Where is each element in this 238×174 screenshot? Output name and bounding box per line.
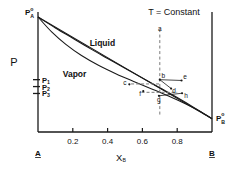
point-marker-c [128,83,130,85]
point-label-g: g [157,96,161,104]
x-axis-title: XB [116,152,126,164]
region-label-liquid: Liquid [90,38,116,48]
point-label-d: d [172,87,176,94]
y-axis-title: P [10,56,17,68]
point-label-c: c [123,79,127,86]
x-tick-label-2: 0.6 [137,137,149,146]
endpoint-label-p-b-pure: PoB [216,112,225,126]
point-label-a: a [158,25,162,32]
condition-label: T = Constant [148,7,200,17]
point-label-b: b [161,72,165,79]
region-label-vapor: Vapor [63,69,87,79]
point-label-f: f [139,90,141,97]
endpoint-label-p-a-pure: PoA [25,6,34,20]
point-marker-e [180,79,182,81]
connector-b-d [160,80,171,89]
connector-b-e [160,80,182,81]
x-endpoint-label-a: A [35,149,41,158]
point-marker-f [142,90,144,92]
x-tick-label-0: 0.2 [67,137,79,146]
x-tick-label-1: 0.4 [102,137,114,146]
point-marker-h [181,92,183,94]
chart-canvas: 0.20.40.60.8P1P2P3abcdefghLiquidVaporT =… [0,0,238,174]
x-tick-label-3: 0.8 [172,137,184,146]
point-label-h: h [184,92,188,99]
x-endpoint-label-b: B [209,149,215,158]
point-label-e: e [183,73,187,80]
phase-diagram-figure: 0.20.40.60.8P1P2P3abcdefghLiquidVaporT =… [0,0,238,174]
